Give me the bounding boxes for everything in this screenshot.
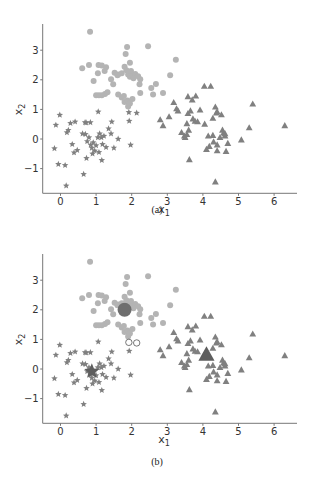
stars-point (55, 161, 61, 167)
stars-point (53, 352, 59, 358)
circles-point (86, 62, 92, 68)
circles-point (129, 326, 135, 332)
stars-point (115, 366, 121, 372)
triangles-point (281, 122, 288, 128)
stars-point (133, 110, 139, 116)
circles-point (130, 75, 136, 81)
y-axis-label: x2 (12, 334, 27, 346)
stars-point (51, 375, 57, 381)
stars-point (80, 401, 86, 407)
stars-point (83, 385, 89, 391)
circles-point (86, 292, 92, 298)
triangles-point (192, 322, 199, 328)
circles-point (79, 295, 85, 301)
y-tick-label: 1 (32, 334, 38, 345)
triangles-point (170, 329, 177, 335)
triangles-point (166, 343, 173, 349)
stars-point (126, 109, 132, 115)
circles-point (121, 323, 127, 329)
triangles-point (183, 120, 190, 126)
triangles-point (212, 178, 219, 184)
circles-point (123, 51, 129, 57)
data-points (51, 29, 288, 189)
stars-point (109, 118, 115, 124)
triangles-point (197, 336, 204, 342)
stars-point (99, 157, 105, 163)
triangles-point (192, 92, 199, 98)
y-axis-label: x2 (12, 104, 27, 116)
stars-point (72, 118, 78, 124)
triangles-point (185, 357, 192, 363)
triangles-point (246, 124, 253, 130)
circles-point (145, 273, 151, 279)
x-tick-label: 1 (93, 426, 99, 437)
triangles-point (197, 106, 204, 112)
y-tick-label: 2 (32, 74, 38, 85)
triangles-point (207, 83, 214, 89)
circles-point (91, 308, 97, 314)
data-points (51, 259, 288, 419)
stars-point (109, 348, 115, 354)
circles-point (125, 103, 131, 109)
stars-point (108, 130, 114, 136)
x-tick-label: 5 (235, 426, 241, 437)
circles-point (95, 70, 101, 76)
y-tick-label: 0 (32, 134, 38, 145)
circles-point (150, 322, 156, 328)
caption-b: (b) (0, 456, 314, 467)
stars-point (55, 391, 61, 397)
stars-point (126, 348, 132, 354)
stars-point (95, 338, 101, 344)
triangles-point (166, 113, 173, 119)
triangles-point (183, 350, 190, 356)
x-tick-label: 6 (271, 426, 277, 437)
triangles-point (238, 366, 245, 372)
y-tick-label: −1 (24, 163, 39, 174)
triangles-point (201, 121, 208, 127)
y-tick-label: 3 (32, 275, 38, 286)
scatter-plot-b: 0123456−10123x1x2 (0, 230, 314, 470)
y-tick-label: 0 (32, 364, 38, 375)
stars-point (63, 182, 69, 188)
triangles-point (157, 346, 164, 352)
circles-point (91, 78, 97, 84)
triangles-point (249, 330, 256, 336)
circles-point (153, 311, 159, 317)
stars-point (108, 360, 114, 366)
circles-point (129, 96, 135, 102)
stars-point (51, 145, 57, 151)
circles-point (87, 259, 93, 265)
circles-point (137, 306, 143, 312)
x-tick-label: 3 (164, 426, 170, 437)
triangles-point (223, 148, 230, 154)
open-circle-point (133, 340, 139, 346)
circles-point (148, 85, 154, 91)
stars-point (53, 122, 59, 128)
circles-point (102, 68, 108, 74)
circles-point (125, 333, 131, 339)
circles-point (173, 57, 179, 63)
circles-point (160, 90, 166, 96)
stars-point (80, 171, 86, 177)
stars-point (57, 112, 63, 118)
circles-point (153, 81, 159, 87)
open-circle-point (126, 339, 132, 345)
triangles-point (207, 313, 214, 319)
x-tick-label: 4 (200, 426, 206, 437)
stars-point (83, 155, 89, 161)
stars-point (72, 348, 78, 354)
circles-point (173, 287, 179, 293)
circles-point (167, 72, 173, 78)
circles-point (102, 298, 108, 304)
stars-point (127, 142, 133, 148)
y-tick-label: 3 (32, 45, 38, 56)
axes: 0123456−10123x1x2 (12, 24, 297, 218)
circles-point (128, 68, 134, 74)
axes: 0123456−10123x1x2 (12, 254, 297, 448)
triangles-point (160, 352, 167, 358)
triangles-point (212, 408, 219, 414)
circles-point (121, 93, 127, 99)
triangles-point (224, 140, 231, 146)
circles-point (137, 90, 143, 96)
stars-point (126, 118, 132, 124)
